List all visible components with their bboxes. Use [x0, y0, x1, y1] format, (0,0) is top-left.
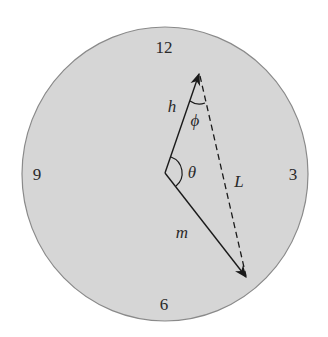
- label-m: m: [176, 223, 188, 242]
- label-L: L: [233, 172, 243, 191]
- label-h: h: [168, 97, 177, 116]
- label-phi: ϕ: [191, 111, 200, 130]
- numeral-12: 12: [156, 38, 173, 57]
- numeral-6: 6: [160, 295, 169, 314]
- label-theta: θ: [188, 163, 196, 182]
- numeral-9: 9: [33, 165, 42, 184]
- clock-diagram: 12 3 6 9 h ϕ θ L m: [0, 0, 328, 337]
- numeral-3: 3: [289, 165, 298, 184]
